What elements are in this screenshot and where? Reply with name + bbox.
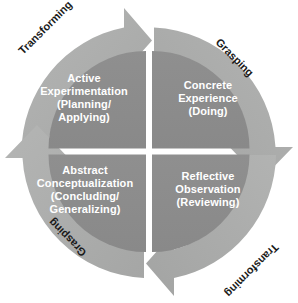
- cycle-graphic: [0, 0, 298, 303]
- learning-cycle-diagram: Active Experimentation (Planning/ Applyi…: [0, 0, 298, 303]
